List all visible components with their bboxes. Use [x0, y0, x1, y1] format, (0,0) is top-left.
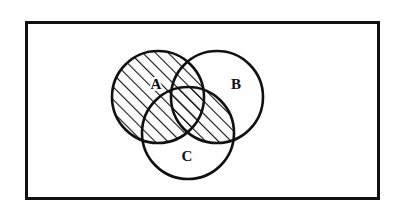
set-label-A: A — [151, 76, 162, 92]
set-label-B: B — [231, 76, 241, 92]
set-label-C: C — [182, 148, 193, 164]
venn-diagram-canvas: A B C — [0, 0, 403, 212]
venn-diagram-figure: A B C — [0, 0, 403, 212]
